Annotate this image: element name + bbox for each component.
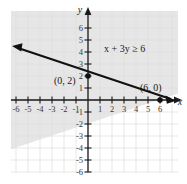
x-tick-label: 2: [110, 104, 114, 114]
inequality-annotation: x + 3y ≥ 6: [104, 43, 145, 54]
point-y-intercept: [85, 73, 91, 79]
y-tick-label: 2: [79, 71, 83, 81]
y-tick-label: -4: [76, 143, 84, 153]
x-tick-label: 6: [158, 104, 162, 114]
point-y-intercept-label: (0, 2): [54, 75, 76, 87]
y-tick-label: -1: [76, 107, 83, 117]
y-tick-label: 1: [79, 83, 83, 93]
x-tick-label: -3: [48, 104, 55, 114]
y-tick-label: -2: [76, 119, 83, 129]
y-tick-label: -6: [76, 167, 83, 177]
point-x-intercept-label: (6, 0): [140, 82, 162, 94]
x-axis-label: x: [177, 96, 183, 107]
x-tick-label: -2: [60, 104, 67, 114]
y-tick-label: 6: [79, 23, 83, 33]
point-x-intercept: [157, 97, 163, 103]
x-tick-label: 1: [98, 104, 102, 114]
x-tick-label: -5: [24, 104, 31, 114]
x-tick-label: 5: [146, 104, 150, 114]
x-tick-label: 3: [122, 104, 126, 114]
y-tick-label: -5: [76, 155, 83, 165]
x-tick-label: -6: [12, 104, 19, 114]
y-axis-label: y: [77, 4, 83, 15]
y-tick-label: -3: [76, 131, 83, 141]
graph-canvas: -6 -5 -4 -3 -2 -1 1 2 3 4 5 6 6 5 4 3 2 …: [0, 0, 187, 184]
coordinate-graph: -6 -5 -4 -3 -2 -1 1 2 3 4 5 6 6 5 4 3 2 …: [0, 0, 187, 184]
x-tick-label: -4: [36, 104, 44, 114]
y-tick-label: 5: [79, 35, 83, 45]
